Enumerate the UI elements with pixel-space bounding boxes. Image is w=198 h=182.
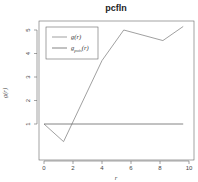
- y-tick-label: 5: [25, 28, 31, 32]
- x-axis-label: r: [115, 174, 118, 181]
- y-axis: 12345: [25, 28, 37, 126]
- legend-box: [46, 27, 98, 59]
- y-tick-label: 3: [25, 75, 31, 79]
- y-axis-label: g(r): [1, 88, 9, 98]
- pcf-chart: pcfln 0246810 12345 r g(r) g(r) gpois(r): [0, 0, 198, 182]
- x-tick-label: 8: [158, 165, 162, 171]
- x-tick-label: 6: [129, 165, 133, 171]
- y-tick-label: 1: [25, 122, 31, 126]
- x-tick-label: 0: [42, 165, 46, 171]
- y-tick-label: 2: [25, 98, 31, 102]
- x-tick-label: 10: [186, 165, 193, 171]
- y-tick-label: 4: [25, 51, 31, 55]
- x-axis: 0246810: [42, 161, 193, 171]
- chart-title: pcfln: [105, 3, 127, 13]
- x-tick-label: 2: [71, 165, 75, 171]
- x-tick-label: 4: [100, 165, 104, 171]
- legend: g(r) gpois(r): [46, 27, 98, 59]
- legend-label-g: g(r): [71, 33, 81, 41]
